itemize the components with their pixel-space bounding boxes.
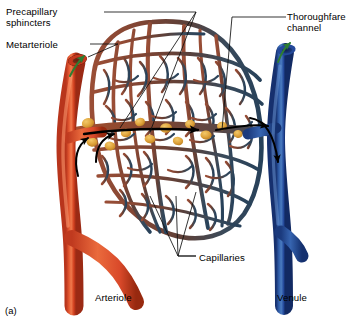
arteriole-inflow-arrow xyxy=(76,138,88,176)
panel-label: (a) xyxy=(5,305,17,316)
label-metarteriole: Metarteriole xyxy=(6,39,58,50)
label-capillaries: Capillaries xyxy=(199,252,245,263)
label-thoroughfare-channel: Thoroughfare channel xyxy=(287,11,346,33)
label-precapillary-sphincters: Precapillary sphincters xyxy=(6,6,57,28)
capillary-bed-figure: Precapillary sphincters Metarteriole Tho… xyxy=(0,0,353,322)
leader-capillaries-2 xyxy=(176,196,178,256)
venule-vessel xyxy=(248,43,302,306)
label-venule: Venule xyxy=(277,292,307,303)
sphincter xyxy=(172,136,184,146)
label-arteriole: Arteriole xyxy=(95,292,132,303)
